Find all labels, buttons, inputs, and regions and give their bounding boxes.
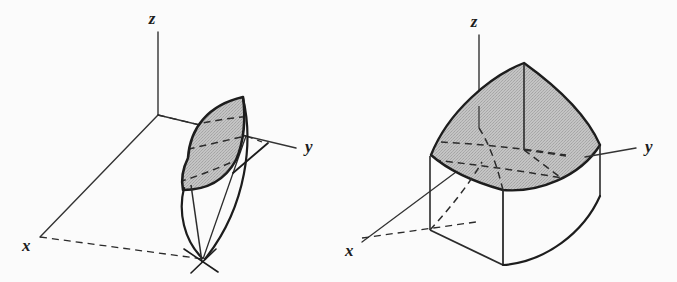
front-left-curve-left xyxy=(182,188,202,258)
x-axis-line-left xyxy=(40,115,158,237)
figure-left: z y x xyxy=(21,9,313,273)
figure-root: z y x xyxy=(0,0,677,282)
figure-right: z y x xyxy=(344,12,653,265)
x-axis-label-right: x xyxy=(344,241,354,260)
x-axis-label-left: x xyxy=(21,236,31,255)
bottom-left-edge-right xyxy=(430,230,503,265)
y-axis-label-right: y xyxy=(643,137,653,156)
diagram-canvas: z y x xyxy=(0,0,677,282)
z-axis-label-right: z xyxy=(470,12,478,31)
z-axis-label-left: z xyxy=(148,9,156,28)
y-axis-label-left: y xyxy=(303,137,313,156)
bottom-curved-face-right xyxy=(503,196,600,265)
